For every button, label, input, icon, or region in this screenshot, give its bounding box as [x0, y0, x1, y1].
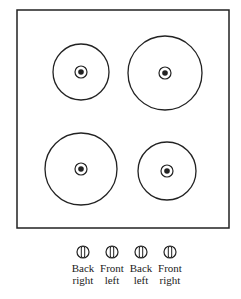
knob-label-back-right: Back right — [68, 262, 98, 286]
label-line2: left — [97, 274, 127, 286]
knob-back-right — [77, 246, 89, 258]
burner-front-right — [138, 142, 196, 200]
knob-back-left — [135, 246, 147, 258]
burner-back-left — [53, 44, 109, 100]
knob-front-right — [164, 246, 176, 258]
label-line2: right — [68, 274, 98, 286]
label-line1: Front — [155, 262, 185, 274]
stovetop-diagram — [0, 0, 241, 299]
label-line1: Back — [126, 262, 156, 274]
knob-label-front-right: Front right — [155, 262, 185, 286]
cooktop-outline — [17, 10, 229, 228]
label-line2: right — [155, 274, 185, 286]
label-line2: left — [126, 274, 156, 286]
label-line1: Front — [97, 262, 127, 274]
knob-label-back-left: Back left — [126, 262, 156, 286]
burner-front-left — [45, 133, 117, 205]
knob-label-front-left: Front left — [97, 262, 127, 286]
burner-back-right — [128, 36, 202, 110]
label-line1: Back — [68, 262, 98, 274]
knob-front-left — [106, 246, 118, 258]
